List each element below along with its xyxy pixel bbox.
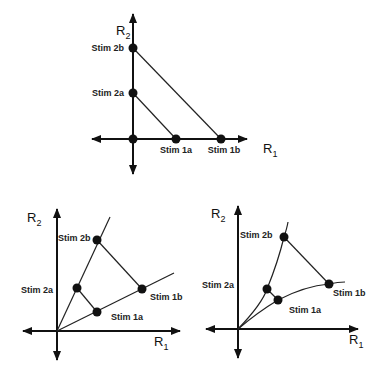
stim-2a-dot (129, 89, 138, 98)
y-axis-label: R2 (27, 210, 41, 228)
y-axis-label: R2 (116, 23, 130, 41)
origin-dot (129, 135, 138, 144)
stim-2b-dot (93, 236, 102, 245)
stim-2b-dot (280, 233, 289, 242)
ray-stim-1 (57, 273, 174, 331)
panel-top: R2 R1 Stim 2b Stim 2a Stim 1a Stim 1b (91, 14, 277, 174)
stim-2b-dot (129, 44, 138, 53)
diagram-canvas: R2 R1 Stim 2b Stim 2a Stim 1a Stim 1b R2… (0, 0, 384, 375)
stim-2a-label: Stim 2a (92, 88, 125, 98)
y-axis-label: R2 (211, 206, 225, 224)
stim-1b-dot (138, 285, 147, 294)
stim-1a-dot (274, 296, 283, 305)
panel-bottom-left: R2 R1 Stim 2b Stim 2a Stim 1b Stim 1a (21, 209, 183, 360)
stim-2b-label: Stim 2b (240, 230, 273, 240)
panel-bottom-right: R2 R1 Stim 2b Stim 2a Stim 1b Stim 1a (202, 206, 366, 358)
contour-b (97, 240, 142, 289)
stim-1b-label: Stim 1b (208, 145, 241, 155)
stim-1b-label: Stim 1b (333, 288, 366, 298)
stim-2a-label: Stim 2a (202, 280, 235, 290)
stim-1b-label: Stim 1b (150, 292, 183, 302)
contour-a (133, 93, 176, 139)
stim-2a-label: Stim 2a (21, 285, 54, 295)
x-axis-label: R1 (263, 141, 277, 159)
stim-2a-dot (73, 284, 82, 293)
contour-a (77, 288, 97, 312)
stim-1a-label: Stim 1a (111, 312, 144, 322)
stim-1b-dot (217, 135, 226, 144)
stim-1a-dot (93, 308, 102, 317)
stim-1a-dot (172, 135, 181, 144)
stim-2b-label: Stim 2b (91, 43, 124, 53)
x-axis-label: R1 (349, 332, 363, 350)
stim-2a-dot (263, 285, 272, 294)
stim-2b-label: Stim 2b (58, 233, 91, 243)
contour-b (284, 237, 329, 284)
stim-1a-label: Stim 1a (160, 145, 193, 155)
stim-1a-label: Stim 1a (289, 305, 322, 315)
x-axis-label: R1 (154, 334, 168, 352)
contour-b (133, 48, 221, 139)
